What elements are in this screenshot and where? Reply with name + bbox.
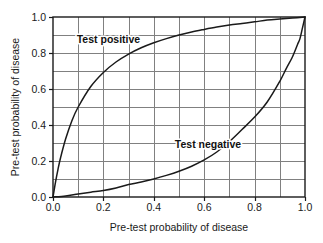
y-tick-label: 0.0 bbox=[31, 191, 46, 203]
y-tick-label: 0.4 bbox=[31, 119, 46, 131]
chart-figure: 0.00.20.40.60.81.0 0.00.20.40.60.81.0 Te… bbox=[0, 0, 323, 243]
y-tick-label: 0.6 bbox=[31, 83, 46, 95]
y-tick-label: 0.2 bbox=[31, 155, 46, 167]
x-tick-label: 0.4 bbox=[146, 201, 161, 213]
x-tick-label: 1.0 bbox=[298, 201, 313, 213]
y-tick-label: 0.8 bbox=[31, 47, 46, 59]
x-tick-label: 0.2 bbox=[96, 201, 111, 213]
y-axis-title: Pre-test probability of disease bbox=[9, 38, 21, 176]
x-tick-label: 0.6 bbox=[197, 201, 212, 213]
x-axis-title: Pre-test probability of disease bbox=[110, 221, 248, 233]
x-tick-label: 0.0 bbox=[46, 201, 61, 213]
series-label-test-positive: Test positive bbox=[77, 33, 141, 45]
series-label-test-negative: Test negative bbox=[175, 138, 241, 150]
y-tick-label: 1.0 bbox=[31, 11, 46, 23]
probability-chart: 0.00.20.40.60.81.0 0.00.20.40.60.81.0 Te… bbox=[0, 0, 323, 243]
x-tick-label: 0.8 bbox=[247, 201, 262, 213]
